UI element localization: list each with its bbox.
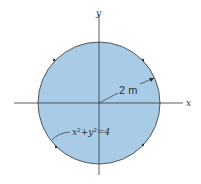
y-axis-label: y [95,8,102,18]
x-axis-label: x [186,98,191,108]
direction-mark [55,146,57,148]
direction-mark [53,59,55,61]
radius-label: 2 m [119,84,137,96]
circle-diagram: x y 2 m x²+y²=4 [0,0,201,184]
direction-mark [142,144,144,146]
direction-mark [142,59,144,61]
equation-label: x²+y²=4 [72,127,110,137]
